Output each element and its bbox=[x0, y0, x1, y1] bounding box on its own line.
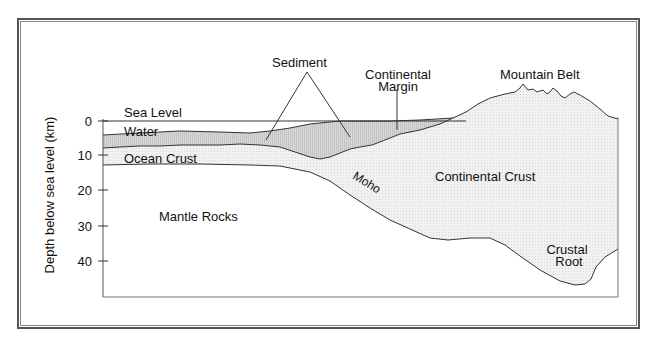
tick-label-40: 40 bbox=[78, 254, 92, 269]
tick-label-30: 30 bbox=[78, 219, 92, 234]
label-mountain-belt: Mountain Belt bbox=[500, 67, 580, 82]
label-continental-crust: Continental Crust bbox=[435, 169, 536, 184]
label-sea-level: Sea Level bbox=[124, 105, 182, 120]
cross-section-diagram: 0 10 20 30 40 Depth below sea level (km)… bbox=[0, 0, 657, 346]
label-water: Water bbox=[124, 124, 159, 139]
tick-label-20: 20 bbox=[78, 183, 92, 198]
label-crustal-root-line2: Root bbox=[555, 254, 583, 269]
tick-label-10: 10 bbox=[78, 148, 92, 163]
label-ocean-crust: Ocean Crust bbox=[124, 151, 197, 166]
label-sediment: Sediment bbox=[272, 55, 327, 70]
label-continental-margin-line2: Margin bbox=[378, 79, 418, 94]
tick-label-0: 0 bbox=[85, 114, 92, 129]
y-axis-label: Depth below sea level (km) bbox=[42, 117, 57, 274]
label-mantle-rocks: Mantle Rocks bbox=[159, 209, 238, 224]
